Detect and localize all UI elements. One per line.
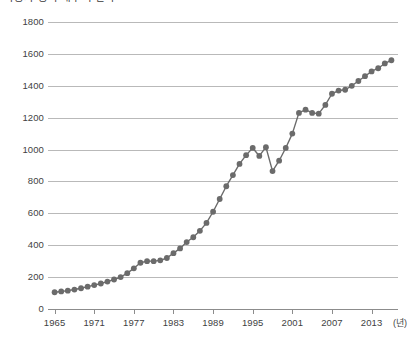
data-point bbox=[375, 65, 381, 71]
data-point bbox=[105, 279, 111, 285]
data-point bbox=[144, 258, 150, 264]
data-point bbox=[78, 285, 84, 291]
data-point bbox=[270, 168, 276, 174]
data-point bbox=[131, 265, 137, 271]
data-point bbox=[243, 152, 249, 158]
data-point bbox=[336, 88, 342, 94]
data-point bbox=[124, 270, 130, 276]
plot-area: 020040060080010001200140016001800 196519… bbox=[0, 0, 418, 343]
data-point bbox=[283, 145, 289, 151]
data-point bbox=[217, 196, 223, 202]
data-point bbox=[329, 91, 335, 97]
data-point bbox=[349, 83, 355, 89]
data-point bbox=[389, 57, 395, 63]
data-point bbox=[197, 228, 203, 234]
data-series bbox=[0, 0, 418, 343]
data-point bbox=[316, 111, 322, 117]
data-point bbox=[157, 257, 163, 263]
data-point bbox=[151, 258, 157, 264]
data-point bbox=[382, 61, 388, 67]
data-point bbox=[111, 277, 117, 283]
data-point bbox=[91, 282, 97, 288]
data-point bbox=[362, 73, 368, 79]
data-point bbox=[296, 110, 302, 116]
data-point bbox=[190, 234, 196, 240]
data-point bbox=[210, 209, 216, 215]
data-point bbox=[184, 239, 190, 245]
data-point bbox=[65, 288, 71, 294]
data-point bbox=[223, 183, 229, 189]
data-point bbox=[289, 131, 295, 137]
data-point bbox=[177, 246, 183, 252]
data-point bbox=[85, 284, 91, 290]
data-point bbox=[355, 78, 361, 84]
data-point bbox=[369, 69, 375, 75]
data-point bbox=[322, 102, 328, 108]
data-point bbox=[309, 110, 315, 116]
data-point bbox=[72, 287, 78, 293]
data-point bbox=[52, 289, 58, 295]
data-point bbox=[303, 107, 309, 113]
data-point bbox=[237, 161, 243, 167]
data-point bbox=[98, 281, 104, 287]
data-point bbox=[58, 289, 64, 295]
data-point bbox=[118, 274, 124, 280]
series-line bbox=[55, 60, 392, 292]
data-point bbox=[164, 255, 170, 261]
chart-container: 자동차 등록 대수의 변화 02004006008001000120014001… bbox=[0, 0, 418, 343]
data-point bbox=[276, 158, 282, 164]
series-markers bbox=[52, 57, 395, 295]
data-point bbox=[204, 220, 210, 226]
data-point bbox=[138, 260, 144, 266]
data-point bbox=[230, 172, 236, 178]
data-point bbox=[171, 250, 177, 256]
data-point bbox=[263, 144, 269, 150]
data-point bbox=[342, 87, 348, 93]
data-point bbox=[250, 145, 256, 151]
data-point bbox=[256, 153, 262, 159]
